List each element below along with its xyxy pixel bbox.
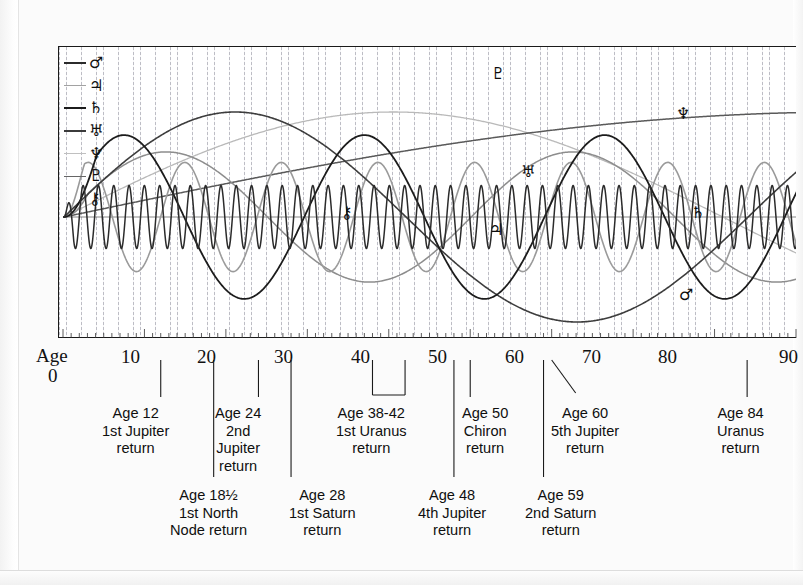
legend-swatch-mars xyxy=(64,62,86,64)
legend-symbol-chiron: ⚷ xyxy=(89,191,101,207)
axis-tick-60: 60 xyxy=(505,346,524,368)
axis-tick-40: 40 xyxy=(351,346,370,368)
axis-origin-age-word: Age xyxy=(36,345,68,367)
axis-tick-30: 30 xyxy=(274,346,293,368)
axis-tick-50: 50 xyxy=(428,346,447,368)
annotation-age-50: Age 50Chironreturn xyxy=(462,405,508,458)
annotation-age-18-half-line-1: Age 18½ xyxy=(170,487,247,505)
axis-tick-90: 90 xyxy=(779,346,798,368)
annotation-age-12-line-3: return xyxy=(102,440,169,458)
annotation-age-38-42: Age 38-421st Uranusreturn xyxy=(336,405,407,458)
axis-origin-zero: 0 xyxy=(48,365,58,387)
annotation-age-38-42-line-3: return xyxy=(336,440,407,458)
annotation-age-24-line-3: Jupiter xyxy=(215,440,261,458)
legend-swatch-saturn xyxy=(64,107,86,109)
annotation-age-59-line-2: 2nd Saturn xyxy=(525,505,596,523)
annotation-age-48-line-1: Age 48 xyxy=(418,487,486,505)
annotation-age-50-line-3: return xyxy=(462,440,508,458)
uranus-label: ♅ xyxy=(521,164,535,180)
annotation-age-38-42-line-2: 1st Uranus xyxy=(336,423,407,441)
axis-tick-70: 70 xyxy=(582,346,601,368)
annotation-age-60: Age 605th Jupiterreturn xyxy=(551,405,619,458)
annotation-age-12-line-2: 1st Jupiter xyxy=(102,423,169,441)
annotation-age-84-line-3: return xyxy=(717,440,764,458)
scanned-page: ♂♃♄♅♆♇⚷ ♇♆♅⚷♃♄♂ Age 0 102030405060708090… xyxy=(0,0,803,585)
annotation-age-50-line-2: Chiron xyxy=(462,423,508,441)
legend-item-pluto: ♇ xyxy=(64,165,116,188)
annotation-age-18-half: Age 18½1st NorthNode return xyxy=(170,487,247,540)
annotation-age-28-line-2: 1st Saturn xyxy=(289,505,356,523)
annotation-age-12-line-1: Age 12 xyxy=(102,405,169,423)
legend-item-uranus: ♅ xyxy=(64,120,116,143)
saturn-label: ♄ xyxy=(691,205,705,221)
annotation-age-60-line-2: 5th Jupiter xyxy=(551,423,619,441)
mars-label: ♂ xyxy=(679,287,693,303)
axis-tick-10: 10 xyxy=(121,346,140,368)
annotation-age-48-line-2: 4th Jupiter xyxy=(418,505,486,523)
annotation-age-59-line-3: return xyxy=(525,522,596,540)
legend-symbol-jupiter: ♃ xyxy=(89,78,103,94)
annotation-age-84-line-2: Uranus xyxy=(717,423,764,441)
annotation-age-48: Age 484th Jupiterreturn xyxy=(418,487,486,540)
annotation-age-60-line-3: return xyxy=(551,440,619,458)
annotation-age-28-line-3: return xyxy=(289,522,356,540)
jupiter-label: ♃ xyxy=(489,222,503,238)
legend-item-chiron: ⚷ xyxy=(64,188,116,211)
pluto-label: ♇ xyxy=(491,66,505,82)
legend-item-saturn: ♄ xyxy=(64,97,116,120)
annotation-age-59-line-1: Age 59 xyxy=(525,487,596,505)
legend-item-jupiter: ♃ xyxy=(64,75,116,98)
page-left-edge xyxy=(0,0,19,585)
annotation-age-28: Age 281st Saturnreturn xyxy=(289,487,356,540)
annotation-age-24: Age 242ndJupiterreturn xyxy=(215,405,261,475)
legend-symbol-pluto: ♇ xyxy=(89,168,103,184)
legend-item-mars: ♂ xyxy=(64,52,116,75)
legend-symbol-uranus: ♅ xyxy=(89,123,103,139)
page-bottom-edge xyxy=(0,570,803,585)
annotation-age-18-half-line-2: 1st North xyxy=(170,505,247,523)
annotation-age-38-42-line-1: Age 38-42 xyxy=(336,405,407,423)
legend-symbol-saturn: ♄ xyxy=(89,100,103,116)
annotation-age-59: Age 592nd Saturnreturn xyxy=(525,487,596,540)
chart-legend: ♂♃♄♅♆♇⚷ xyxy=(64,52,116,210)
annotation-age-50-line-1: Age 50 xyxy=(462,405,508,423)
legend-symbol-mars: ♂ xyxy=(89,55,103,71)
legend-swatch-pluto xyxy=(64,176,86,177)
annotation-age-48-line-3: return xyxy=(418,522,486,540)
chiron-label: ⚷ xyxy=(341,205,353,221)
annotation-age-84: Age 84Uranusreturn xyxy=(717,405,764,458)
annotation-age-28-line-1: Age 28 xyxy=(289,487,356,505)
annotation-age-60-line-1: Age 60 xyxy=(551,405,619,423)
axis-tick-80: 80 xyxy=(658,346,677,368)
annotation-age-12: Age 121st Jupiterreturn xyxy=(102,405,169,458)
legend-symbol-neptune: ♆ xyxy=(89,146,103,162)
legend-item-neptune: ♆ xyxy=(64,142,116,165)
annotation-age-24-line-2: 2nd xyxy=(215,423,261,441)
annotation-age-24-line-4: return xyxy=(215,458,261,476)
legend-swatch-uranus xyxy=(64,130,86,132)
x-axis: Age 0 102030405060708090 xyxy=(0,338,803,378)
annotation-age-18-half-line-3: Node return xyxy=(170,522,247,540)
axis-tick-20: 20 xyxy=(197,346,216,368)
legend-swatch-neptune xyxy=(64,153,86,154)
legend-swatch-jupiter xyxy=(64,85,86,86)
annotation-age-84-line-1: Age 84 xyxy=(717,405,764,423)
annotation-age-24-line-1: Age 24 xyxy=(215,405,261,423)
neptune-label: ♆ xyxy=(676,106,690,122)
